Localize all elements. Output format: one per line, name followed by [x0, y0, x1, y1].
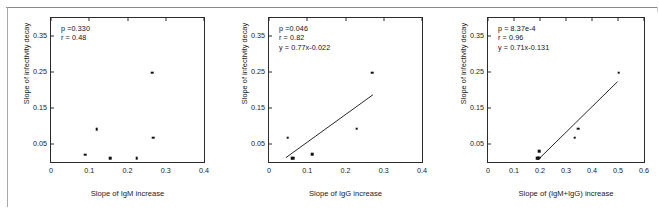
- x-tick-label: 0.3: [161, 167, 171, 174]
- plot-area-panel-3: p = 8.37e-4 r = 0.96 y = 0.71x-0.131 0.0…: [487, 17, 645, 163]
- data-point: [151, 71, 154, 74]
- y-tick-label: 0.25: [33, 68, 47, 75]
- data-point: [152, 136, 155, 139]
- y-axis-label-panel-2: Slope of infectivity decay: [240, 4, 249, 124]
- data-point: [538, 156, 541, 159]
- y-tick-mark: [51, 108, 54, 109]
- panel-igg: Slope of infectivity decay p =0.046 r = …: [220, 9, 439, 209]
- data-point: [109, 157, 112, 160]
- x-tick-mark: [51, 18, 52, 21]
- p-value-panel-1: p =0.330: [61, 24, 90, 33]
- stats-annotation-panel-1: p =0.330 r = 0.48: [61, 24, 90, 43]
- x-tick-label: 0: [486, 167, 490, 174]
- plot-area-panel-1: p =0.330 r = 0.48 0.050.150.250.3500.10.…: [50, 17, 205, 163]
- panel-igm: Slope of infectivity decay p =0.330 r = …: [2, 9, 221, 209]
- x-tick-mark: [165, 18, 166, 21]
- y-tick-label: 0.35: [251, 32, 265, 39]
- x-tick-label: 0.4: [199, 167, 209, 174]
- x-axis-label-panel-2: Slope of IgG increase: [268, 189, 423, 198]
- x-tick-label: 0.1: [84, 167, 94, 174]
- x-tick-label: 0.3: [379, 167, 389, 174]
- data-point: [577, 128, 580, 131]
- x-tick-label: 0.5: [613, 167, 623, 174]
- figure-top-rule: [6, 7, 657, 8]
- data-point: [292, 157, 295, 160]
- x-tick-label: 0.6: [639, 167, 649, 174]
- y-tick-label: 0.35: [33, 32, 47, 39]
- x-tick-mark: [89, 18, 90, 21]
- y-tick-label: 0.05: [470, 140, 484, 147]
- data-point: [573, 136, 576, 139]
- x-tick-mark: [127, 18, 128, 21]
- panel-igm-plus-igg: Slope of infectivity decay p = 8.37e-4 r…: [439, 9, 658, 209]
- y-axis-label-panel-3: Slope of infectivity decay: [459, 4, 468, 124]
- y-tick-label: 0.05: [251, 140, 265, 147]
- data-point: [617, 71, 620, 74]
- x-axis-label-panel-3: Slope of (IgM+IgG) increase: [487, 189, 645, 198]
- x-tick-label: 0.2: [123, 167, 133, 174]
- panel-row: Slope of infectivity decay p =0.330 r = …: [0, 9, 659, 209]
- plot-area-panel-2: p =0.046 r = 0.82 y = 0.77x-0.022 0.050.…: [268, 17, 423, 163]
- x-tick-label: 0.3: [561, 167, 571, 174]
- x-tick-label: 0.2: [535, 167, 545, 174]
- regression-line: [488, 18, 644, 162]
- data-point: [371, 71, 374, 74]
- y-tick-mark: [51, 72, 54, 73]
- data-point: [286, 136, 289, 139]
- r-value-panel-1: r = 0.48: [61, 33, 90, 42]
- x-axis-label-panel-1: Slope of IgM increase: [50, 189, 205, 198]
- x-tick-label: 0: [49, 167, 53, 174]
- regression-line: [269, 18, 422, 162]
- y-tick-mark: [51, 144, 54, 145]
- data-point: [311, 153, 314, 156]
- y-tick-label: 0.25: [470, 68, 484, 75]
- y-tick-label: 0.15: [470, 104, 484, 111]
- data-point: [538, 150, 541, 153]
- x-tick-label: 0.4: [587, 167, 597, 174]
- y-tick-label: 0.15: [33, 104, 47, 111]
- data-point: [355, 127, 358, 130]
- x-tick-label: 0.2: [341, 167, 351, 174]
- y-tick-mark: [51, 36, 54, 37]
- y-tick-label: 0.35: [470, 32, 484, 39]
- data-point: [84, 154, 87, 157]
- x-tick-label: 0.4: [417, 167, 427, 174]
- x-tick-label: 0.1: [509, 167, 519, 174]
- figure-container: Slope of infectivity decay p =0.330 r = …: [0, 0, 659, 212]
- x-tick-label: 0: [267, 167, 271, 174]
- data-point: [95, 128, 98, 131]
- y-tick-label: 0.05: [33, 140, 47, 147]
- x-tick-label: 0.1: [302, 167, 312, 174]
- y-tick-label: 0.25: [251, 68, 265, 75]
- y-axis-label-panel-1: Slope of infectivity decay: [22, 4, 31, 124]
- x-tick-mark: [204, 18, 205, 21]
- data-point: [135, 157, 138, 160]
- y-tick-label: 0.15: [251, 104, 265, 111]
